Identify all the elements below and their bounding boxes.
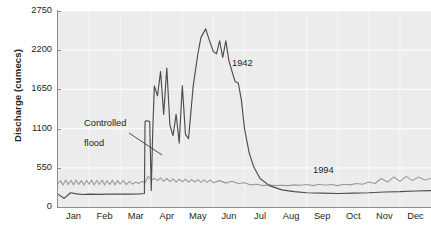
series-plot: [58, 11, 431, 207]
y-tick-mark: [57, 50, 61, 51]
y-tick-mark: [57, 207, 61, 208]
y-tick-mark: [57, 11, 61, 12]
annotation-controlled-flood-line1: Controlled: [84, 118, 126, 128]
annotation-series-label-1942: 1942: [232, 58, 253, 68]
x-tick-label-sep: Sep: [306, 211, 338, 221]
discharge-chart: Discharge (cumecs) 05501100165022002750 …: [0, 0, 431, 240]
y-tick-label: 1100: [0, 123, 52, 133]
y-tick-label: 2200: [0, 44, 52, 54]
y-tick-mark: [57, 129, 61, 130]
y-tick-label: 550: [0, 162, 52, 172]
x-tick-label-aug: Aug: [275, 211, 307, 221]
y-axis-tick-labels: 05501100165022002750: [0, 0, 52, 240]
y-tick-mark: [57, 168, 61, 169]
plot-area: [58, 11, 431, 207]
gridlines: [58, 11, 431, 207]
x-tick-label-jul: Jul: [244, 211, 276, 221]
x-tick-label-mar: Mar: [120, 211, 152, 221]
y-tick-label: 2750: [0, 5, 52, 15]
annotation-series-label-1994: 1994: [313, 165, 334, 175]
x-tick-label-feb: Feb: [89, 211, 121, 221]
x-tick-label-jun: Jun: [213, 211, 245, 221]
annotation-controlled-flood-line2: flood: [84, 138, 104, 148]
x-axis-line: [57, 207, 431, 208]
x-tick-label-dec: Dec: [399, 211, 431, 221]
y-tick-label: 0: [0, 201, 52, 211]
x-tick-label-may: May: [182, 211, 214, 221]
x-tick-label-jan: Jan: [58, 211, 90, 221]
x-tick-label-apr: Apr: [151, 211, 183, 221]
x-tick-label-oct: Oct: [337, 211, 369, 221]
y-tick-label: 1650: [0, 83, 52, 93]
x-tick-label-nov: Nov: [368, 211, 400, 221]
y-tick-mark: [57, 89, 61, 90]
